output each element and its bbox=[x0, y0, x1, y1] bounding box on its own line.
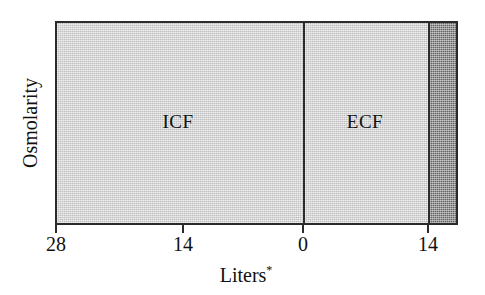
x-tick-label-28-left: 28 bbox=[46, 234, 66, 254]
ecf-expansion-divider bbox=[428, 23, 430, 223]
x-tick-0 bbox=[302, 225, 304, 233]
icf-label: ICF bbox=[162, 111, 193, 133]
x-tick-label-14-right: 14 bbox=[418, 234, 438, 254]
x-axis-title-text: Liters bbox=[220, 264, 267, 286]
x-tick-label-0: 0 bbox=[298, 234, 308, 254]
volume-expansion-band bbox=[428, 23, 456, 223]
plot-area bbox=[55, 21, 458, 225]
x-axis-footnote-marker: * bbox=[266, 263, 272, 277]
x-axis-title: Liters* bbox=[220, 264, 273, 287]
x-tick-14-left bbox=[182, 225, 184, 233]
y-axis-title: Osmolarity bbox=[19, 78, 42, 168]
x-tick-28-left bbox=[55, 225, 57, 233]
fluid-compartment-diagram: ICF ECF 28 14 0 14 Liters* Osmolarity bbox=[0, 0, 485, 295]
ecf-label: ECF bbox=[347, 111, 383, 133]
x-tick-label-14-left: 14 bbox=[173, 234, 193, 254]
icf-ecf-divider bbox=[303, 23, 305, 223]
x-tick-14-right bbox=[427, 225, 429, 233]
